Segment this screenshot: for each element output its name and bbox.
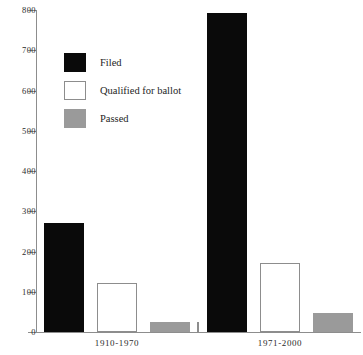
y-axis-tick-label: 700 [10,45,36,55]
y-axis-tick-label: 200 [10,247,36,257]
x-axis-category-label: 1910-1970 [95,338,139,348]
bar-qualified-2 [260,263,300,332]
y-axis-tick-label: 100 [10,287,36,297]
legend-item-qualified: Qualified for ballot [64,76,181,104]
y-axis-tick-label: 600 [10,86,36,96]
legend-item-passed: Passed [64,104,181,132]
bar-filed-1 [44,223,84,332]
y-axis-line [36,10,37,332]
y-axis-tick-label: 0 [10,327,36,337]
legend-item-filed: Filed [64,48,181,76]
bar-chart: 0100200300400500600700800 1910-19701971-… [0,0,363,355]
y-axis-tick-label: 800 [10,5,36,15]
bar-filed-2 [207,13,247,332]
x-axis-line [36,332,361,333]
legend-label-qualified: Qualified for ballot [100,85,181,96]
bar-qualified-1 [97,283,137,332]
legend-label-passed: Passed [100,113,129,124]
group-separator-tick [197,322,199,332]
legend: Filed Qualified for ballot Passed [64,48,181,132]
x-axis-category-label: 1971-2000 [258,338,302,348]
legend-swatch-qualified-icon [64,81,86,100]
bar-passed-2 [313,313,353,332]
legend-swatch-passed-icon [64,109,86,128]
legend-swatch-filed-icon [64,53,86,72]
y-axis-tick-label: 300 [10,206,36,216]
y-axis-tick-label: 500 [10,126,36,136]
legend-label-filed: Filed [100,57,122,68]
bar-passed-1 [150,322,190,332]
y-axis-tick-label: 400 [10,166,36,176]
